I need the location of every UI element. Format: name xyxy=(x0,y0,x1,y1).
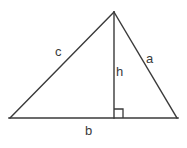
right-angle-marker xyxy=(114,109,123,118)
side-a-label: a xyxy=(146,52,153,65)
base-b-label: b xyxy=(85,124,92,137)
height-h-label: h xyxy=(116,65,123,78)
triangle-diagram: c a h b xyxy=(0,0,187,148)
side-c-line xyxy=(10,12,114,118)
side-c-label: c xyxy=(55,45,62,58)
triangle-svg xyxy=(0,0,187,148)
